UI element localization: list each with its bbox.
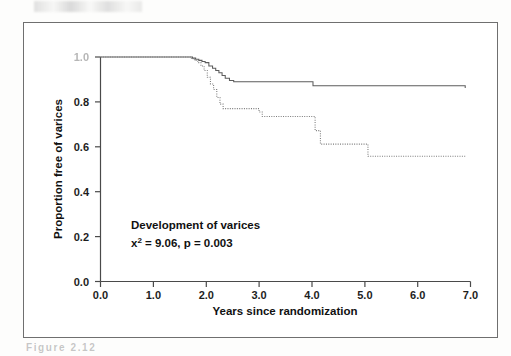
- x-tick-labels: 0.0 1.0 2.0 3.0 4.0 5.0 6.0 7.0: [93, 289, 478, 301]
- y-tick-label: 0.8: [74, 96, 89, 108]
- x-tick-label: 4.0: [304, 289, 319, 301]
- y-tick-labels: 1.0 0.8 0.6 0.4 0.2 0.0: [74, 51, 90, 288]
- annotation-title: Development of varices: [131, 219, 260, 231]
- kaplan-meier-chart: 1.0 0.8 0.6 0.4 0.2 0.0 0.0 1.0 2.0 3.0 …: [0, 0, 511, 356]
- x-tick-label: 2.0: [199, 289, 214, 301]
- annotation-statistic: x2 = 9.06, p = 0.003: [131, 236, 233, 249]
- x-tick-label: 6.0: [410, 289, 425, 301]
- x-axis: [101, 282, 471, 288]
- y-tick-label: 1.0: [74, 51, 89, 63]
- y-tick-label: 0.0: [74, 276, 89, 288]
- x-tick-label: 3.0: [251, 289, 266, 301]
- annotation-block: Development of varices x2 = 9.06, p = 0.…: [131, 219, 260, 249]
- y-tick-label: 0.6: [74, 141, 89, 153]
- x-tick-label: 7.0: [463, 289, 478, 301]
- curve-dotted-lower: [101, 57, 466, 156]
- x-tick-label: 0.0: [93, 289, 108, 301]
- stat-values: = 9.06, p = 0.003: [142, 237, 233, 249]
- x-axis-title: Years since randomization: [212, 305, 357, 317]
- y-tick-label: 0.2: [74, 231, 89, 243]
- series-group: [101, 57, 466, 156]
- curve-solid-upper-clean: [101, 57, 466, 88]
- x-tick-label: 5.0: [357, 289, 372, 301]
- y-axis-title: Proportion free of varices: [52, 99, 64, 239]
- y-tick-label: 0.4: [74, 186, 90, 198]
- y-axis: [95, 57, 101, 282]
- x-tick-label: 1.0: [146, 289, 161, 301]
- scanned-page: 1.0 0.8 0.6 0.4 0.2 0.0 0.0 1.0 2.0 3.0 …: [0, 0, 511, 356]
- figure-caption: Figure 2.12: [26, 342, 96, 354]
